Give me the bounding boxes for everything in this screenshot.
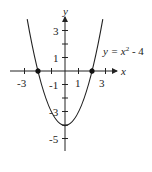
y-tick-label: -1 <box>49 79 58 91</box>
x-tick-label: -3 <box>17 77 27 89</box>
x-intercept-right <box>89 68 94 73</box>
y-axis-label: y <box>62 5 68 17</box>
x-axis-label: x <box>120 65 126 77</box>
y-tick-label: 3 <box>53 25 59 37</box>
y-tick-label: 1 <box>53 52 59 64</box>
x-intercept-left <box>35 68 40 73</box>
x-tick-label: 3 <box>99 77 105 89</box>
parabola-chart: y x -3 1 3 3 1 -1 -3 -5 y = x2 - 4 <box>0 0 152 172</box>
equation-label: y = x2 - 4 <box>102 45 144 57</box>
x-tick-label: 1 <box>75 77 81 89</box>
y-tick-label: -3 <box>49 106 59 118</box>
y-tick-label: -5 <box>49 133 59 145</box>
